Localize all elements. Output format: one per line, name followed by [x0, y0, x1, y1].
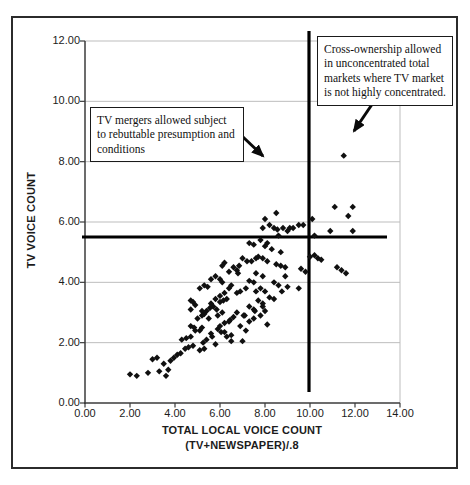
- data-point-diamond: [260, 273, 266, 279]
- data-point-diamond: [273, 210, 279, 216]
- annotation-text-line: conditions: [97, 142, 237, 156]
- data-point-diamond: [237, 323, 243, 329]
- data-point-diamond: [161, 361, 167, 367]
- data-point-diamond: [350, 204, 356, 210]
- y-tick-label: 4.00: [36, 275, 80, 287]
- data-point-diamond: [260, 225, 266, 231]
- data-point-diamond: [163, 373, 169, 379]
- annotation-text-line: markets where TV market: [324, 71, 446, 85]
- annotation-text-line: TV mergers allowed subject: [97, 113, 237, 127]
- x-tick-label: 8.00: [242, 407, 288, 419]
- data-point-diamond: [257, 312, 263, 318]
- data-point-diamond: [145, 370, 151, 376]
- data-point-diamond: [341, 152, 347, 158]
- x-tick-label: 0.00: [62, 407, 108, 419]
- y-tick-label: 12.00: [36, 34, 80, 46]
- data-point-diamond: [156, 368, 162, 374]
- data-point-diamond: [239, 338, 245, 344]
- data-point-diamond: [332, 204, 338, 210]
- data-point-diamond: [234, 309, 240, 315]
- data-point-diamond: [282, 273, 288, 279]
- x-axis-title-line1: TOTAL LOCAL VOICE COUNT: [92, 424, 392, 436]
- y-tick-label: 2.00: [36, 336, 80, 348]
- tv-mergers-arrow: [243, 137, 263, 156]
- scatter-plot-page: 0.002.004.006.008.0010.0012.00 0.002.004…: [0, 0, 470, 485]
- data-point-diamond: [165, 367, 171, 373]
- data-point-diamond: [243, 327, 249, 333]
- x-tick-label: 6.00: [197, 407, 243, 419]
- annotation-cross-ownership: Cross-ownership allowedin unconcentrated…: [317, 36, 453, 106]
- x-axis-title-line2: (TV+NEWSPAPER)/.8: [92, 439, 392, 451]
- y-tick-label: 6.00: [36, 215, 80, 227]
- x-tick-label: 2.00: [107, 407, 153, 419]
- data-point-diamond: [284, 284, 290, 290]
- annotation-text-line: to rebuttable presumption and: [97, 127, 237, 141]
- data-point-diamond: [262, 216, 268, 222]
- annotation-text-line: Cross-ownership allowed: [324, 42, 446, 56]
- data-point-diamond: [345, 213, 351, 219]
- x-tick-label: 4.00: [152, 407, 198, 419]
- data-point-diamond: [296, 285, 302, 291]
- data-point-diamond: [188, 306, 194, 312]
- data-point-diamond: [253, 270, 259, 276]
- data-point-diamond: [350, 228, 356, 234]
- data-point-diamond: [327, 228, 333, 234]
- y-axis-title: TV VOICE COUNT: [25, 120, 37, 320]
- x-tick-label: 14.00: [377, 407, 423, 419]
- annotation-text-line: is not highly concentrated.: [324, 85, 446, 99]
- data-point-diamond: [290, 225, 296, 231]
- data-point-diamond: [279, 288, 285, 294]
- x-tick-label: 12.00: [332, 407, 378, 419]
- data-point-diamond: [127, 371, 133, 377]
- x-tick-label: 10.00: [287, 407, 333, 419]
- data-point-diamond: [134, 373, 140, 379]
- y-tick-label: 8.00: [36, 155, 80, 167]
- data-point-diamond: [228, 338, 234, 344]
- data-point-diamond: [300, 222, 306, 228]
- y-tick-label: 10.00: [36, 94, 80, 106]
- data-point-diamond: [226, 269, 232, 275]
- data-point-diamond: [264, 321, 270, 327]
- data-point-diamond: [243, 285, 249, 291]
- annotation-text-line: in unconcentrated total: [324, 56, 446, 70]
- data-point-diamond: [212, 341, 218, 347]
- annotation-tv-mergers: TV mergers allowed subjectto rebuttable …: [90, 107, 244, 162]
- data-point-diamond: [206, 315, 212, 321]
- data-point-diamond: [269, 246, 275, 252]
- data-point-diamond: [240, 312, 246, 318]
- data-point-diamond: [278, 249, 284, 255]
